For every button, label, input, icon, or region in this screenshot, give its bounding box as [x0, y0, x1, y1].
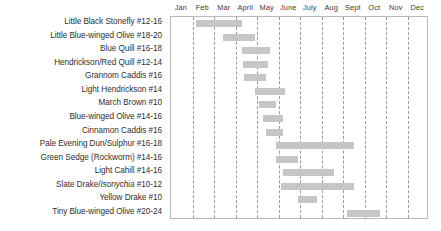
month-label-mar: Mar [213, 3, 235, 12]
month-label-sept: Sept [342, 3, 364, 12]
month-label-june: June [278, 3, 300, 12]
gridline-mar [214, 17, 215, 218]
month-label-july: July [299, 3, 321, 12]
category-label: Pale Evening Dun/Sulphur #16-18 [40, 139, 162, 148]
category-label: Grannom Caddis #16 [85, 71, 162, 80]
hatch-bar [255, 88, 285, 95]
month-label-dec: Dec [407, 3, 429, 12]
category-label: Blue-winged Olive #14-16 [69, 112, 162, 121]
month-label-may: May [256, 3, 278, 12]
hatch-bar [298, 196, 317, 203]
month-label-feb: Feb [192, 3, 214, 12]
month-label-aug: Aug [321, 3, 343, 12]
gridline-april [236, 17, 237, 218]
hatch-bar [276, 142, 353, 149]
month-label-nov: Nov [385, 3, 407, 12]
hatch-bar [263, 115, 282, 122]
category-label: Hendrickson/Red Quill #12-14 [54, 58, 162, 67]
category-label: Light Hendrickson #14 [82, 85, 162, 94]
category-label: Cinnamon Caddis #16 [82, 126, 162, 135]
month-axis-header: JanFebMarAprilMayJuneJulyAugSeptOctNovDe… [170, 3, 428, 15]
category-labels-column: Little Black Stonefly #12-16Little Blue-… [0, 16, 167, 219]
category-label: Tiny Blue-winged Olive #20-24 [52, 207, 162, 216]
hatch-bar [259, 101, 276, 108]
gridline-dec [408, 17, 409, 218]
category-label: Light Cahill #14-16 [95, 166, 162, 175]
month-label-april: April [235, 3, 257, 12]
gridline-feb [193, 17, 194, 218]
category-label: Little Black Stonefly #12-16 [64, 17, 162, 26]
hatch-bar [243, 61, 268, 68]
month-label-oct: Oct [364, 3, 386, 12]
gridline-nov [386, 17, 387, 218]
hatch-bar [283, 169, 335, 176]
hatch-bar [276, 156, 298, 163]
category-label: Yellow Drake #10 [99, 193, 162, 202]
hatch-bar [266, 129, 283, 136]
hatch-bar [242, 47, 270, 54]
hatch-bar [347, 210, 379, 217]
category-label: March Brown #10 [99, 98, 162, 107]
hatch-chart: JanFebMarAprilMayJuneJulyAugSeptOctNovDe… [0, 0, 441, 231]
hatch-bar [196, 20, 242, 27]
hatch-bar [223, 34, 255, 41]
hatch-bar [281, 183, 354, 190]
category-label: Green Sedge (Rockworm) #14-16 [41, 153, 162, 162]
category-label: Little Blue-winged Olive #18-20 [50, 31, 162, 40]
hatch-bar [244, 74, 266, 81]
month-label-jan: Jan [170, 3, 192, 12]
plot-area [170, 16, 428, 219]
gridline-oct [365, 17, 366, 218]
category-label: Slate Drake/Isonychia #10-12 [56, 180, 162, 189]
category-label: Blue Quill #16-18 [100, 44, 162, 53]
